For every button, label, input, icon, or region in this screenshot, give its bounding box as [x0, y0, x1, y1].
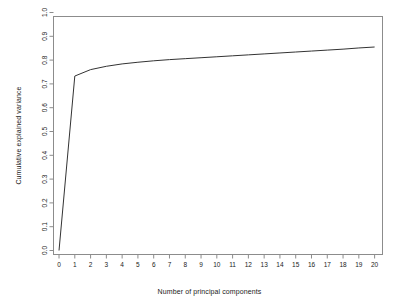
- x-tick-label: 2: [89, 261, 93, 268]
- x-tick-label: 18: [339, 261, 347, 268]
- x-tick-label: 13: [261, 261, 269, 268]
- scree-plot-figure: 0.00.10.20.30.40.50.60.70.80.91.0 012345…: [0, 0, 419, 308]
- x-axis-title: Number of principal components: [0, 288, 419, 295]
- x-tick-label: 11: [229, 261, 236, 268]
- y-tick-label: 0.3: [41, 174, 48, 183]
- data-series-group: [59, 47, 375, 250]
- y-tick-label: 0.2: [41, 198, 48, 207]
- x-tick-label: 3: [105, 261, 109, 268]
- x-tick-label: 7: [168, 261, 172, 268]
- x-tick-label: 4: [120, 261, 124, 268]
- x-tick-label: 16: [308, 261, 316, 268]
- y-axis-title: Cumulative explained variance: [15, 86, 22, 184]
- y-tick-label: 0.8: [41, 55, 48, 64]
- x-tick-label: 5: [136, 261, 140, 268]
- x-tick-label: 15: [292, 261, 300, 268]
- x-axis-ticks: 01234567891011121314151617181920: [57, 255, 378, 269]
- x-tick-label: 0: [57, 261, 61, 268]
- plot-frame: [54, 17, 383, 255]
- y-tick-label: 1.0: [41, 8, 48, 17]
- y-tick-label: 0.9: [41, 31, 48, 40]
- x-tick-label: 1: [73, 261, 77, 268]
- y-tick-label: 0.5: [41, 127, 48, 136]
- x-tick-label: 19: [355, 261, 363, 268]
- x-tick-label: 17: [324, 261, 332, 268]
- x-tick-label: 20: [371, 261, 379, 268]
- y-axis-ticks: 0.00.10.20.30.40.50.60.70.80.91.0: [41, 8, 53, 255]
- x-tick-label: 6: [152, 261, 156, 268]
- x-tick-label: 8: [183, 261, 187, 268]
- x-tick-label: 14: [276, 261, 284, 268]
- y-tick-label: 0.0: [41, 246, 48, 255]
- x-tick-label: 12: [245, 261, 253, 268]
- y-tick-label: 0.6: [41, 103, 48, 112]
- cumulative-variance-line: [59, 47, 375, 250]
- y-tick-label: 0.1: [41, 222, 48, 231]
- y-tick-label: 0.4: [41, 150, 48, 159]
- x-tick-label: 10: [213, 261, 221, 268]
- x-tick-label: 9: [199, 261, 203, 268]
- chart-canvas: 0.00.10.20.30.40.50.60.70.80.91.0 012345…: [0, 0, 419, 308]
- y-tick-label: 0.7: [41, 79, 48, 88]
